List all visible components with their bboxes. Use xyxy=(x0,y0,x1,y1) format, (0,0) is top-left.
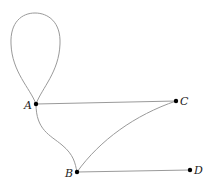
node-d xyxy=(188,168,192,172)
node-label-b: B xyxy=(65,168,73,179)
edge-b-c xyxy=(77,101,176,172)
edge-a-b xyxy=(36,104,77,172)
node-label-c: C xyxy=(180,96,188,107)
graph-svg xyxy=(0,0,211,187)
node-label-d: D xyxy=(194,165,203,176)
edge-a-loop xyxy=(11,13,60,104)
node-a xyxy=(34,102,38,106)
graph-diagram: A B C D xyxy=(0,0,211,187)
node-label-a: A xyxy=(24,100,32,111)
node-b xyxy=(75,170,79,174)
edge-a-c xyxy=(36,101,176,104)
edge-b-d xyxy=(77,170,190,172)
node-c xyxy=(174,99,178,103)
